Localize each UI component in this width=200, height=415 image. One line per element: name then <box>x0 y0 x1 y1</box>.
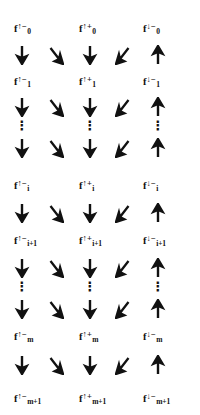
arrow-up-icon <box>150 355 166 375</box>
flux-label-up-plus-0: f↑+0 <box>79 19 96 39</box>
spin-superscript: ↑ <box>18 233 22 243</box>
arrow-down-icon <box>82 45 98 65</box>
arrow-down-icon <box>14 355 30 375</box>
arrow-up-icon <box>150 299 166 319</box>
flux-label-down-minus-0: f↓−0 <box>143 19 160 39</box>
arrow-row-b-bottom <box>0 138 200 158</box>
index-subscript: i+1 <box>92 239 102 248</box>
flux-label-down-minus-i-plus-1: f↓−i+1 <box>143 231 166 251</box>
index-subscript: m+1 <box>156 397 170 406</box>
arrow-down-right-icon <box>48 203 64 223</box>
spin-superscript: ↓ <box>147 233 151 243</box>
arrow-row-d-bottom <box>0 299 200 319</box>
spin-superscript: ↑ <box>18 21 22 31</box>
arrow-down-icon <box>82 203 98 223</box>
index-subscript: 1 <box>27 80 31 89</box>
label-row-0: f↑−0 f↑+0 f↓−0 <box>0 19 200 33</box>
index-subscript: 1 <box>92 80 96 89</box>
arrow-down-right-icon <box>48 97 64 117</box>
arrow-down-left-icon <box>115 355 131 375</box>
label-row-i: f↑−i f↑+i f↓−i <box>0 176 200 190</box>
arrow-down-icon <box>14 97 30 117</box>
spin-superscript: ↓ <box>147 391 151 401</box>
arrow-down-right-icon <box>48 45 64 65</box>
spin-superscript: ↑ <box>83 21 87 31</box>
index-subscript: 1 <box>156 80 160 89</box>
arrow-down-icon <box>82 97 98 117</box>
arrow-down-icon <box>14 203 30 223</box>
vertical-dots-icon: ⋮ <box>82 118 98 134</box>
flux-label-up-minus-1: f↑−1 <box>14 72 31 92</box>
index-subscript: m+1 <box>92 397 106 406</box>
arrow-down-icon <box>14 299 30 319</box>
index-subscript: m <box>92 335 98 344</box>
spin-superscript: ↑ <box>18 178 22 188</box>
dots-row-d: ⋮ ⋮ ⋮ <box>0 279 200 295</box>
index-subscript: i <box>156 184 158 193</box>
arrow-row-a <box>0 45 200 65</box>
label-row-m-plus-1: f↑−m+1 f↑+m+1 f↓−m+1 <box>0 389 200 403</box>
flux-ladder-diagram: f↑−0 f↑+0 f↓−0 f↑−1 f↑+1 <box>0 0 200 415</box>
vertical-dots-icon: ⋮ <box>150 279 166 295</box>
spin-superscript: ↓ <box>147 74 151 84</box>
arrow-down-right-icon <box>48 138 64 158</box>
flux-label-up-minus-m: f↑−m <box>14 327 33 347</box>
arrow-down-icon <box>82 299 98 319</box>
arrow-up-icon <box>150 45 166 65</box>
arrow-down-left-icon <box>115 203 131 223</box>
arrow-down-left-icon <box>115 299 131 319</box>
flux-label-up-minus-i-plus-1: f↑−i+1 <box>14 231 37 251</box>
arrow-up-icon <box>150 97 166 117</box>
arrow-down-icon <box>82 138 98 158</box>
flux-label-up-plus-1: f↑+1 <box>79 72 96 92</box>
dots-row-b: ⋮ ⋮ ⋮ <box>0 118 200 134</box>
flux-label-up-minus-i: f↑−i <box>14 176 29 196</box>
index-subscript: 0 <box>156 27 160 36</box>
spin-superscript: ↑ <box>83 329 87 339</box>
vertical-dots-icon: ⋮ <box>150 118 166 134</box>
spin-superscript: ↓ <box>147 329 151 339</box>
index-subscript: i+1 <box>27 239 37 248</box>
spin-superscript: ↑ <box>83 74 87 84</box>
arrow-down-left-icon <box>115 45 131 65</box>
index-subscript: m+1 <box>27 397 41 406</box>
index-subscript: m <box>156 335 162 344</box>
arrow-down-right-icon <box>48 258 64 278</box>
arrow-row-c <box>0 203 200 223</box>
flux-label-up-plus-m-plus-1: f↑+m+1 <box>79 389 106 409</box>
arrow-row-e <box>0 355 200 375</box>
arrow-down-icon <box>82 355 98 375</box>
flux-label-up-minus-0: f↑−0 <box>14 19 31 39</box>
spin-superscript: ↑ <box>18 391 22 401</box>
spin-superscript: ↑ <box>83 391 87 401</box>
spin-superscript: ↑ <box>18 329 22 339</box>
spin-superscript: ↓ <box>147 21 151 31</box>
index-subscript: i+1 <box>156 239 166 248</box>
arrow-down-left-icon <box>115 258 131 278</box>
arrow-down-left-icon <box>115 138 131 158</box>
label-row-i-plus-1: f↑−i+1 f↑+i+1 f↓−i+1 <box>0 231 200 245</box>
index-subscript: 0 <box>92 27 96 36</box>
arrow-down-right-icon <box>48 355 64 375</box>
flux-label-down-minus-m: f↓−m <box>143 327 162 347</box>
arrow-down-icon <box>14 45 30 65</box>
label-row-1: f↑−1 f↑+1 f↓−1 <box>0 72 200 86</box>
index-subscript: i <box>92 184 94 193</box>
arrow-up-icon <box>150 203 166 223</box>
arrow-down-icon <box>82 258 98 278</box>
index-subscript: i <box>27 184 29 193</box>
arrow-up-icon <box>150 138 166 158</box>
flux-label-down-minus-m-plus-1: f↓−m+1 <box>143 389 170 409</box>
vertical-dots-icon: ⋮ <box>82 279 98 295</box>
label-row-m: f↑−m f↑+m f↓−m <box>0 327 200 341</box>
spin-superscript: ↑ <box>83 233 87 243</box>
vertical-dots-icon: ⋮ <box>14 118 30 134</box>
flux-label-up-plus-m: f↑+m <box>79 327 98 347</box>
spin-superscript: ↓ <box>147 178 151 188</box>
arrow-down-icon <box>14 258 30 278</box>
index-subscript: 0 <box>27 27 31 36</box>
flux-label-down-minus-i: f↓−i <box>143 176 158 196</box>
arrow-up-icon <box>150 258 166 278</box>
arrow-down-left-icon <box>115 97 131 117</box>
index-subscript: m <box>27 335 33 344</box>
